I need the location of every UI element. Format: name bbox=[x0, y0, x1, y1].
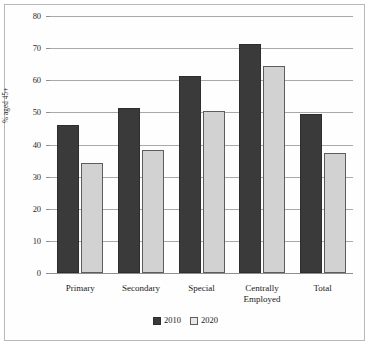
y-tick-mark-80 bbox=[46, 16, 50, 17]
bar-2010-special bbox=[179, 76, 201, 273]
y-tick-mark-0 bbox=[46, 273, 50, 274]
gridline-0 bbox=[50, 273, 353, 274]
bar-2010-secondary bbox=[118, 108, 140, 273]
chart-legend: 20102020 bbox=[5, 316, 366, 325]
y-tick-label-60: 60 bbox=[7, 76, 41, 85]
bar-group bbox=[118, 16, 164, 273]
legend-item-2020[interactable]: 2020 bbox=[190, 316, 218, 325]
y-tick-label-70: 70 bbox=[7, 44, 41, 53]
y-tick-label-20: 20 bbox=[7, 205, 41, 214]
bar-2020-secondary bbox=[142, 150, 164, 273]
bar-group bbox=[179, 16, 225, 273]
bar-group bbox=[57, 16, 103, 273]
bar-2020-centrally-employed bbox=[263, 66, 285, 273]
legend-swatch-icon-2010 bbox=[153, 317, 161, 325]
x-axis-labels: PrimarySecondarySpecialCentrallyEmployed… bbox=[50, 277, 353, 311]
y-tick-mark-60 bbox=[46, 80, 50, 81]
legend-item-2010[interactable]: 2010 bbox=[153, 316, 181, 325]
bar-2010-total bbox=[300, 114, 322, 273]
legend-label-2020: 2020 bbox=[201, 316, 218, 325]
y-tick-mark-70 bbox=[46, 48, 50, 49]
y-tick-label-10: 10 bbox=[7, 237, 41, 246]
bar-2020-primary bbox=[81, 163, 103, 273]
y-tick-mark-10 bbox=[46, 241, 50, 242]
y-tick-mark-40 bbox=[46, 145, 50, 146]
chart-figure-frame: 01020304050607080 % aged 45+ PrimarySeco… bbox=[4, 4, 365, 341]
bar-group bbox=[300, 16, 346, 273]
bar-group bbox=[239, 16, 285, 273]
y-tick-label-40: 40 bbox=[7, 141, 41, 150]
x-tick-label-total: Total bbox=[283, 283, 363, 294]
y-tick-mark-20 bbox=[46, 209, 50, 210]
bar-2020-total bbox=[324, 153, 346, 273]
bar-2010-primary bbox=[57, 125, 79, 273]
y-tick-mark-30 bbox=[46, 177, 50, 178]
plot-area bbox=[50, 16, 353, 273]
y-tick-label-30: 30 bbox=[7, 173, 41, 182]
y-tick-label-0: 0 bbox=[7, 269, 41, 278]
legend-swatch-icon-2020 bbox=[190, 317, 198, 325]
y-axis-title: % aged 45+ bbox=[3, 88, 10, 123]
legend-label-2010: 2010 bbox=[164, 316, 181, 325]
x-tick-label-line: Total bbox=[283, 283, 363, 294]
y-tick-mark-50 bbox=[46, 112, 50, 113]
bar-2020-special bbox=[203, 111, 225, 273]
x-tick-label-line: Employed bbox=[222, 294, 302, 305]
y-tick-label-50: 50 bbox=[7, 108, 41, 117]
bar-2010-centrally-employed bbox=[239, 44, 261, 273]
y-tick-label-80: 80 bbox=[7, 12, 41, 21]
